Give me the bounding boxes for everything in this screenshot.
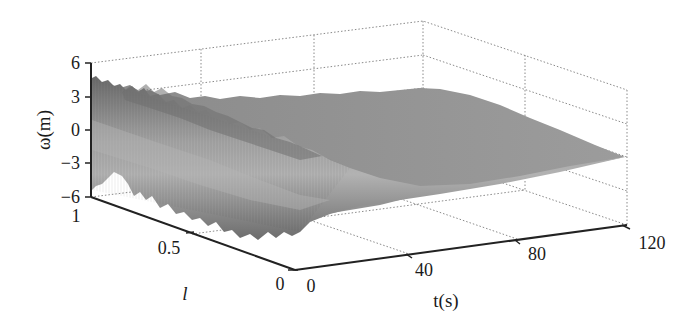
l-tick-1: 1 (72, 206, 81, 226)
z-axis-title: ω(m) (33, 110, 55, 150)
surface-plot: 6 3 0 −3 −6 1 0.5 0 0 40 80 120 ω(m) l t… (0, 0, 688, 332)
t-tick-0: 0 (307, 276, 316, 296)
t-tick-80: 80 (528, 244, 546, 264)
t-axis-title: t(s) (433, 290, 458, 312)
z-tick-0: 0 (71, 120, 80, 140)
z-tick-6: 6 (71, 53, 80, 73)
z-tick-3: 3 (71, 87, 80, 107)
surface (92, 76, 625, 240)
l-tick-0.5: 0.5 (158, 238, 181, 258)
z-tick-minus6: −6 (61, 187, 80, 207)
l-axis-title: l (182, 283, 187, 304)
t-tick-120: 120 (639, 233, 666, 253)
l-tick-0: 0 (276, 274, 285, 294)
t-tick-40: 40 (415, 260, 433, 280)
z-tick-minus3: −3 (61, 153, 80, 173)
